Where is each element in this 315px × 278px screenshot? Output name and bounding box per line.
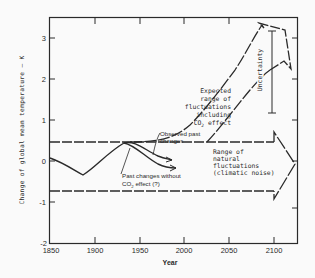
- y-axis-title: Change of global mean temperature – K: [18, 56, 26, 205]
- x-axis-ticks-top: [95, 18, 229, 25]
- x-axis-ticks: [95, 237, 274, 244]
- svg-text:including: including: [196, 111, 231, 119]
- natural-range-label: Range of natural fluctuations (climatic …: [213, 148, 275, 177]
- chart-figure: 3 2 1 0 -1 -2 1850 1900 1950 2000 2050 2…: [0, 0, 315, 278]
- svg-text:CO2 effect: CO2 effect: [194, 119, 232, 128]
- x-tick-label: 1850: [43, 246, 60, 255]
- without-co2-leader-line: [121, 148, 130, 174]
- uncertainty-label: Uncertainty: [256, 49, 264, 91]
- y-tick-label: 1: [42, 116, 46, 125]
- x-tick-label: 2100: [266, 246, 283, 255]
- x-tick-label: 1950: [132, 246, 149, 255]
- svg-text:range of: range of: [200, 95, 231, 103]
- observed-leader-line: [153, 133, 160, 155]
- y-axis-ticks: [50, 38, 56, 202]
- y-tick-labels: 3 2 1 0 -1 -2: [39, 34, 47, 248]
- svg-text:(climatic noise): (climatic noise): [213, 169, 275, 177]
- uncertainty-bar: [268, 31, 276, 113]
- y-axis-ticks-right: [292, 38, 298, 208]
- svg-text:Expected: Expected: [200, 87, 231, 95]
- x-tick-label: 2000: [176, 246, 193, 255]
- expected-range-label: Expected range of fluctuations including…: [185, 87, 231, 128]
- svg-text:changes: changes: [160, 137, 183, 144]
- without-co2-label: Past changes without CO2 effect (?): [122, 172, 181, 189]
- without-co2-curve: [124, 143, 176, 168]
- natural-range-arrowhead: [274, 132, 295, 199]
- svg-text:fluctuations: fluctuations: [185, 103, 231, 111]
- svg-text:Past changes without: Past changes without: [122, 172, 181, 179]
- y-tick-label: 0: [42, 157, 46, 166]
- x-axis-title: Year: [163, 259, 178, 266]
- svg-text:CO2 effect (?): CO2 effect (?): [122, 180, 160, 189]
- x-tick-labels: 1850 1900 1950 2000 2050 2100: [43, 246, 283, 255]
- y-tick-label: 2: [42, 75, 46, 84]
- observed-past-curve: [50, 142, 172, 175]
- svg-text:Observed past: Observed past: [160, 130, 201, 137]
- y-tick-label: -1: [39, 198, 46, 207]
- x-tick-label: 1900: [87, 246, 104, 255]
- y-tick-label: 3: [42, 34, 46, 43]
- x-tick-label: 2050: [221, 246, 238, 255]
